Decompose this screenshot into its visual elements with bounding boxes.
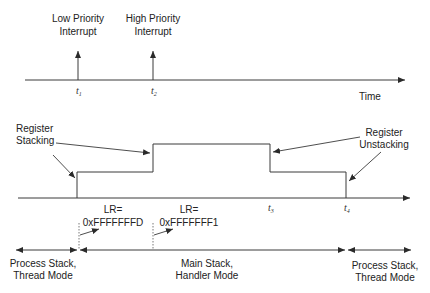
lr-value-2: LR= 0xFFFFFFF1 xyxy=(153,204,219,250)
interrupt-timing-diagram: Time Low Priority Interrupt t1 High Prio… xyxy=(0,0,430,293)
lr-value: 0xFFFFFFFD xyxy=(83,217,144,228)
lr-value-annotations: LR= 0xFFFFFFFD LR= 0xFFFFFFF1 xyxy=(79,204,219,250)
mode-label-line1: Process Stack, xyxy=(10,258,77,269)
stack-waveform: Register Stacking Register Unstacking t3… xyxy=(16,123,410,214)
interrupt-label-line2: Interrupt xyxy=(59,26,96,37)
mode-label-line2: Thread Mode xyxy=(355,272,415,283)
register-unstacking-annotation: Register Unstacking xyxy=(273,127,409,181)
unstacking-label-line2: Unstacking xyxy=(359,139,408,150)
mode-label-line1: Main Stack, xyxy=(181,258,233,269)
mode-segment-main-handler: Main Stack, Handler Mode xyxy=(80,250,345,281)
high-priority-interrupt: High Priority Interrupt t2 xyxy=(126,13,180,97)
stacking-label-line2: Stacking xyxy=(16,135,54,146)
time-axis-label: Time xyxy=(359,91,381,102)
pointer-arrow-icon xyxy=(53,155,75,178)
lr-value-1: LR= 0xFFFFFFFD xyxy=(79,204,143,250)
interrupt-label-line1: Low Priority xyxy=(52,13,104,24)
pointer-arrow-icon xyxy=(154,229,173,235)
time-tick-label: t4 xyxy=(344,202,350,214)
lr-label: LR= xyxy=(104,204,123,215)
pointer-arrow-icon xyxy=(56,143,150,153)
time-tick-label: t3 xyxy=(268,202,274,214)
mode-label-line1: Process Stack, xyxy=(352,260,419,271)
lr-value: 0xFFFFFFF1 xyxy=(160,217,219,228)
pointer-arrow-icon xyxy=(273,137,360,152)
register-stacking-annotation: Register Stacking xyxy=(16,123,150,178)
interrupt-label-line1: High Priority xyxy=(126,13,180,24)
time-tick-label: t1 xyxy=(76,85,82,97)
stack-depth-trace xyxy=(77,144,346,198)
unstacking-label-line1: Register xyxy=(365,127,403,138)
top-timeline: Time Low Priority Interrupt t1 High Prio… xyxy=(25,13,405,102)
time-tick-label: t2 xyxy=(151,85,157,97)
mode-label-line2: Handler Mode xyxy=(176,270,239,281)
lr-label: LR= xyxy=(180,204,199,215)
pointer-arrow-icon xyxy=(349,152,381,181)
mode-timeline: Process Stack, Thread Mode Main Stack, H… xyxy=(10,250,419,283)
mode-label-line2: Thread Mode xyxy=(13,270,73,281)
mode-segment-process-thread-1: Process Stack, Thread Mode xyxy=(10,250,77,281)
pointer-arrow-icon xyxy=(80,229,99,235)
interrupt-label-line2: Interrupt xyxy=(134,26,171,37)
mode-segment-process-thread-2: Process Stack, Thread Mode xyxy=(348,250,418,283)
low-priority-interrupt: Low Priority Interrupt t1 xyxy=(52,13,104,97)
stacking-label-line1: Register xyxy=(16,123,54,134)
